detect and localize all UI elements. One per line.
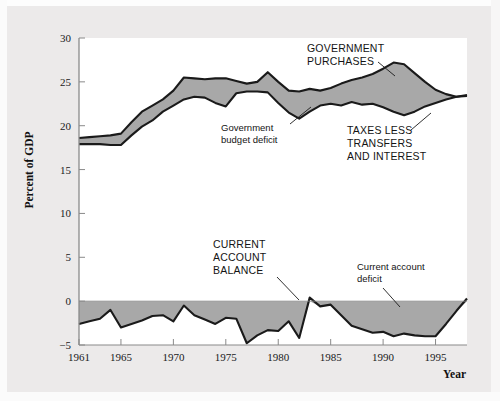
chart-svg: 302520151050−5 1961196519701975198019851… bbox=[0, 0, 500, 401]
annotation-taxes-line3: AND INTEREST bbox=[347, 150, 427, 162]
x-tick-label: 1985 bbox=[320, 351, 343, 363]
annotation-budget-deficit-line1: Government bbox=[221, 122, 274, 133]
x-axis-title: Year bbox=[443, 368, 466, 380]
annotation-current-deficit-line1: Current account bbox=[357, 261, 425, 272]
y-tick-label: 10 bbox=[60, 207, 72, 219]
x-tick-label: 1990 bbox=[372, 351, 395, 363]
annotation-current-account-line2: ACCOUNT bbox=[213, 251, 267, 263]
x-tick-label: 1975 bbox=[215, 351, 238, 363]
annotation-government-purchases-line1: GOVERNMENT bbox=[307, 42, 385, 54]
y-tick-label: 0 bbox=[66, 295, 72, 307]
y-tick-label: −5 bbox=[59, 339, 71, 351]
x-tick-label: 1980 bbox=[267, 351, 290, 363]
annotation-taxes-line2: TRANSFERS bbox=[347, 137, 412, 149]
y-axis-title: Percent of GDP bbox=[23, 131, 35, 208]
x-tick-label: 1965 bbox=[110, 351, 133, 363]
annotation-budget-deficit-line2: budget deficit bbox=[221, 134, 278, 145]
y-tick-label: 15 bbox=[60, 164, 72, 176]
y-tick-label: 30 bbox=[60, 32, 72, 44]
x-tick-label: 1970 bbox=[162, 351, 185, 363]
annotation-current-account-line1: CURRENT bbox=[213, 238, 266, 250]
y-tick-label: 5 bbox=[66, 251, 72, 263]
annotation-current-account-line3: BALANCE bbox=[213, 264, 263, 276]
y-tick-label: 20 bbox=[60, 120, 72, 132]
annotation-current-deficit-line2: deficit bbox=[357, 273, 382, 284]
y-tick-label: 25 bbox=[60, 76, 72, 88]
annotation-government-purchases-line2: PURCHASES bbox=[307, 55, 374, 67]
x-tick-label: 1995 bbox=[425, 351, 448, 363]
annotation-taxes-line1: TAXES LESS bbox=[347, 124, 412, 136]
figure-container: 302520151050−5 1961196519701975198019851… bbox=[0, 0, 500, 401]
x-tick-label: 1961 bbox=[68, 351, 90, 363]
